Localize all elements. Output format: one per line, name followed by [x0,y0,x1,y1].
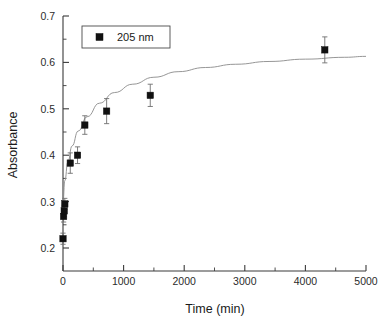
y-tick-label: 0.3 [40,196,55,208]
data-point-marker [61,208,67,214]
x-tick-label: 1000 [112,275,136,287]
data-point-marker [60,236,66,242]
legend-label: 205 nm [117,31,154,43]
y-axis-title: Absorbance [6,112,20,179]
data-point-marker [74,152,80,158]
chart-figure: 010002000300040005000 0.20.30.40.50.60.7… [0,0,391,323]
data-point-marker [82,122,88,128]
y-tick-label: 0.2 [40,242,55,254]
data-point-marker [67,160,73,166]
data-point-marker [103,108,109,114]
x-tick-label: 2000 [173,275,197,287]
chart-legend: 205 nm [82,26,170,48]
absorbance-vs-time-chart: 010002000300040005000 0.20.30.40.50.60.7… [0,0,391,323]
y-tick-label: 0.5 [40,103,55,115]
x-axis-title: Time (min) [185,302,244,316]
y-tick-label: 0.4 [40,149,55,161]
data-point-marker [147,92,153,98]
x-tick-label: 3000 [233,275,257,287]
y-tick-label: 0.7 [40,10,55,22]
x-tick-label: 0 [60,275,66,287]
legend-marker-icon [96,34,103,41]
x-tick-label: 4000 [294,275,318,287]
data-point-marker [62,201,68,207]
data-point-marker [322,47,328,53]
x-tick-label: 5000 [354,275,378,287]
y-tick-label: 0.6 [40,56,55,68]
